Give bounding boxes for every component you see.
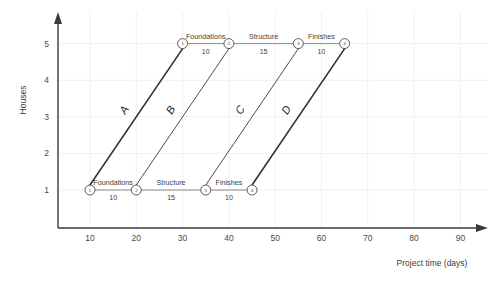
activity-duration-label: 10 <box>109 194 117 201</box>
x-tick-label: 40 <box>224 233 234 243</box>
y-axis-title: Houses <box>18 86 28 115</box>
chart-canvas: 10203040506070809012345 Foundations10Str… <box>0 0 500 282</box>
activity-duration-label: 15 <box>260 48 268 55</box>
y-tick-label: 2 <box>44 148 49 158</box>
balance-line-label: A <box>116 103 131 116</box>
balance-line-label: B <box>163 103 177 116</box>
activity-duration-label: 10 <box>202 48 210 55</box>
x-axis-title: Project time (days) <box>397 258 468 268</box>
y-tick-label: 1 <box>44 185 49 195</box>
x-tick-label: 60 <box>317 233 327 243</box>
axes-layer <box>54 12 488 232</box>
activity-name-label: Structure <box>249 32 278 41</box>
x-tick-label: 10 <box>85 233 95 243</box>
activity-duration-label: 10 <box>318 48 326 55</box>
y-tick-label: 4 <box>44 75 49 85</box>
x-tick-label: 80 <box>409 233 419 243</box>
balance-line-label: C <box>232 103 246 116</box>
x-tick-label: 50 <box>270 233 280 243</box>
line-of-balance-chart: 10203040506070809012345 Foundations10Str… <box>0 0 500 282</box>
x-tick-label: 70 <box>363 233 373 243</box>
x-tick-label: 30 <box>178 233 188 243</box>
activity-name-label: Foundations <box>93 178 133 187</box>
balance-line-label: D <box>279 103 293 116</box>
activity-name-label: Foundations <box>186 32 226 41</box>
x-axis-arrowhead <box>476 224 488 232</box>
activity-chain-house-5: Foundations10Structure15Finishes101234 <box>178 32 350 55</box>
x-tick-label: 90 <box>456 233 466 243</box>
activity-name-label: Structure <box>156 178 185 187</box>
activity-chains-layer: Foundations10Structure15Finishes101234Fo… <box>85 32 350 201</box>
grid-layer <box>58 12 488 228</box>
y-axis-arrowhead <box>54 12 62 24</box>
activity-name-label: Finishes <box>308 32 335 41</box>
y-tick-label: 3 <box>44 112 49 122</box>
activity-chain-house-1: Foundations10Structure15Finishes101234 <box>85 178 257 201</box>
x-tick-label: 20 <box>132 233 142 243</box>
activity-duration-label: 15 <box>167 194 175 201</box>
axis-tick-labels: 10203040506070809012345 <box>44 39 465 243</box>
activity-name-label: Finishes <box>216 178 243 187</box>
y-tick-label: 5 <box>44 39 49 49</box>
activity-duration-label: 10 <box>225 194 233 201</box>
